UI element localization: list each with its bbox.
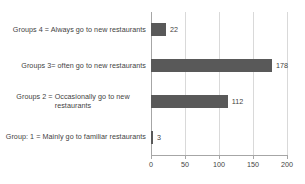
bar-group-4[interactable]: [151, 23, 166, 36]
category-label: Groups 3= often go to new restaurants: [21, 61, 146, 71]
bar-row: 22: [151, 12, 288, 48]
category-label: Groups 2 = Occasionally go to new restau…: [0, 92, 146, 111]
category-label: Groups 4 = Always go to new restaurants: [13, 25, 146, 35]
category-label-cell: Group: 1 = Mainly go to familiar restaur…: [0, 119, 151, 155]
plot-area: 22 178 112 3: [151, 12, 288, 155]
tick-label-50: 50: [181, 160, 189, 169]
tick-label-200: 200: [281, 160, 293, 169]
tick-mark: [185, 156, 186, 159]
bar-row: 112: [151, 84, 288, 120]
bar-group-1[interactable]: [151, 131, 153, 144]
bar-group-2[interactable]: [151, 95, 228, 108]
bars-layer: 22 178 112 3: [151, 12, 288, 155]
tick-label-0: 0: [149, 160, 153, 169]
value-axis: 0 50 100 150 200: [151, 156, 288, 172]
bar-value-label: 178: [276, 61, 288, 70]
tick-mark: [151, 156, 152, 159]
category-label-cell: Groups 4 = Always go to new restaurants: [0, 12, 151, 48]
bar-value-label: 3: [157, 133, 161, 142]
tick-label-150: 150: [247, 160, 259, 169]
tick-mark: [287, 156, 288, 159]
category-axis: Groups 4 = Always go to new restaurants …: [0, 12, 151, 155]
tick-mark: [219, 156, 220, 159]
category-label: Group: 1 = Mainly go to familiar restaur…: [6, 132, 146, 142]
bar-value-label: 112: [232, 97, 243, 106]
tick-label-100: 100: [213, 160, 225, 169]
bar-row: 3: [151, 119, 288, 155]
category-label-cell: Groups 3= often go to new restaurants: [0, 48, 151, 84]
bar-value-label: 22: [170, 25, 178, 34]
bar-chart: Groups 4 = Always go to new restaurants …: [0, 0, 305, 184]
bar-row: 178: [151, 48, 288, 84]
bar-group-3[interactable]: [151, 59, 272, 72]
tick-mark: [253, 156, 254, 159]
category-label-cell: Groups 2 = Occasionally go to new restau…: [0, 84, 151, 120]
